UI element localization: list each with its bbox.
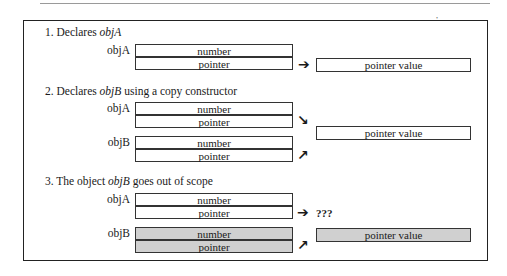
- step-3-heading: 3. The object objB goes out of scope: [45, 175, 213, 187]
- step-2-objA-label: objA: [90, 102, 130, 114]
- step-1-heading: 1. Declares objA: [45, 26, 121, 38]
- step-2-objA-pointer: pointer: [135, 115, 293, 128]
- step-2-objB-label: objB: [90, 136, 130, 148]
- up-right-arrow-icon: ↗: [297, 148, 309, 162]
- right-arrow-icon: ➔: [298, 57, 310, 71]
- up-right-arrow-icon: ↗: [297, 238, 309, 252]
- dangling-pointer-label: ???: [316, 207, 333, 219]
- step-2-pointer-value: pointer value: [316, 126, 471, 140]
- step-3-objB-label: objB: [90, 227, 130, 239]
- step-3-objB-pointer: pointer: [135, 240, 293, 253]
- step-3-objB-number: number: [135, 227, 293, 240]
- top-rule: [40, 3, 490, 4]
- step-1-objA-number: number: [135, 44, 293, 57]
- step-3-objA-label: objA: [90, 193, 130, 205]
- step-2-objB-number: number: [135, 136, 293, 149]
- step-1-pointer-value: pointer value: [316, 58, 471, 72]
- down-right-arrow-icon: ↘: [297, 113, 309, 127]
- step-2-objB-pointer: pointer: [135, 149, 293, 162]
- step-2-objA-number: number: [135, 102, 293, 115]
- step-1-objA-pointer: pointer: [135, 57, 293, 70]
- step-3-objA-number: number: [135, 193, 293, 206]
- step-1-objA-label: objA: [90, 44, 130, 56]
- step-3-pointer-value: pointer value: [316, 228, 471, 242]
- right-arrow-icon: ➔: [297, 205, 309, 219]
- step-2-heading: 2. Declares objB using a copy constructo…: [45, 85, 237, 97]
- stray-mark: ,: [436, 11, 438, 20]
- step-3-objA-pointer: pointer: [135, 206, 293, 219]
